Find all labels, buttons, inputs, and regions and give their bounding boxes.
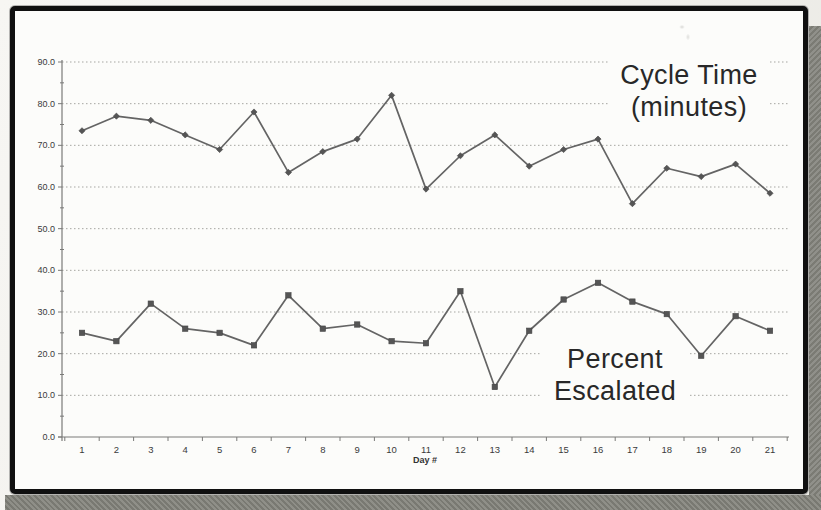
percent-escalated-marker bbox=[114, 338, 119, 343]
percent-escalated-marker bbox=[767, 328, 772, 333]
cycle-time-minutes-marker bbox=[561, 146, 567, 152]
y-tick-label: 10.0 bbox=[37, 390, 55, 400]
cycle-time-minutes-marker bbox=[595, 136, 601, 142]
x-tick-label: 3 bbox=[148, 444, 153, 455]
percent-escalated-marker bbox=[79, 330, 84, 335]
cycle-time-series-label: Cycle Time (minutes) bbox=[608, 60, 770, 124]
cycle-time-minutes-marker bbox=[148, 117, 154, 123]
cycle-time-minutes-marker bbox=[698, 173, 704, 179]
x-tick-label: 18 bbox=[662, 444, 673, 455]
x-tick-label: 10 bbox=[386, 444, 397, 455]
x-tick-label: 21 bbox=[765, 444, 776, 455]
percent-escalated-series-label-line1: Percent bbox=[540, 344, 690, 376]
percent-escalated-marker bbox=[286, 293, 291, 298]
percent-escalated-marker bbox=[389, 338, 394, 343]
x-tick-label: 2 bbox=[114, 444, 119, 455]
cycle-time-series-label-line1: Cycle Time bbox=[608, 60, 770, 92]
percent-escalated-series-label-line2: Escalated bbox=[540, 376, 690, 408]
x-tick-label: 16 bbox=[593, 444, 604, 455]
x-tick-label: 1 bbox=[79, 444, 84, 455]
x-tick-label: 4 bbox=[183, 444, 188, 455]
x-tick-label: 7 bbox=[286, 444, 291, 455]
percent-escalated-marker bbox=[699, 353, 704, 358]
x-tick-label: 20 bbox=[730, 444, 741, 455]
x-tick-label: 19 bbox=[696, 444, 707, 455]
x-tick-label: 8 bbox=[320, 444, 325, 455]
percent-escalated-marker bbox=[561, 297, 566, 302]
x-tick-label: 17 bbox=[627, 444, 638, 455]
cycle-time-minutes-marker bbox=[182, 132, 188, 138]
y-tick-label: 70.0 bbox=[37, 140, 55, 150]
cycle-time-minutes-marker bbox=[79, 128, 85, 134]
percent-escalated-series-label: Percent Escalated bbox=[540, 344, 690, 408]
y-tick-label: 60.0 bbox=[37, 182, 55, 192]
scan-smudge-artifact bbox=[676, 22, 696, 46]
x-tick-label: 11 bbox=[421, 444, 431, 455]
percent-escalated-marker bbox=[595, 280, 600, 285]
y-tick-label: 0.0 bbox=[42, 432, 55, 442]
x-tick-label: 13 bbox=[490, 444, 501, 455]
x-tick-label: 15 bbox=[558, 444, 569, 455]
percent-escalated-marker bbox=[458, 288, 463, 293]
percent-escalated-marker bbox=[492, 384, 497, 389]
percent-escalated-marker bbox=[148, 301, 153, 306]
percent-escalated-marker bbox=[183, 326, 188, 331]
y-tick-label: 50.0 bbox=[37, 224, 55, 234]
percent-escalated-marker bbox=[217, 330, 222, 335]
y-tick-label: 80.0 bbox=[37, 99, 55, 109]
cycle-time-minutes-marker bbox=[113, 113, 119, 119]
percent-escalated-marker bbox=[664, 311, 669, 316]
x-tick-label: 12 bbox=[455, 444, 466, 455]
x-tick-label: 6 bbox=[251, 444, 256, 455]
percent-escalated-marker bbox=[733, 313, 738, 318]
y-tick-label: 30.0 bbox=[37, 307, 55, 317]
percent-escalated-marker bbox=[355, 322, 360, 327]
cycle-time-series-label-line2: (minutes) bbox=[608, 92, 770, 124]
percent-escalated-marker bbox=[320, 326, 325, 331]
percent-escalated-marker bbox=[630, 299, 635, 304]
y-tick-label: 90.0 bbox=[37, 57, 55, 67]
y-tick-label: 20.0 bbox=[37, 349, 55, 359]
scanned-chart-page: 0.010.020.030.040.050.060.070.080.090.01… bbox=[0, 0, 821, 510]
y-tick-label: 40.0 bbox=[37, 265, 55, 275]
percent-escalated-marker bbox=[251, 343, 256, 348]
percent-escalated-marker bbox=[423, 341, 428, 346]
x-axis-title: Day # bbox=[385, 455, 465, 465]
x-tick-label: 9 bbox=[355, 444, 360, 455]
x-tick-label: 14 bbox=[524, 444, 535, 455]
x-tick-label: 5 bbox=[217, 444, 222, 455]
percent-escalated-marker bbox=[527, 328, 532, 333]
